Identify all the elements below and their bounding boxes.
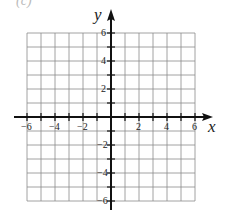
x-tick-label: −2 [77, 122, 88, 132]
x-axis-label: x [208, 118, 216, 135]
y-tick-label: 6 [101, 28, 106, 38]
y-tick-label: −6 [97, 196, 108, 206]
y-axis-label: y [94, 6, 102, 23]
coordinate-plane: (c) y x −6−4−2246642−2−4−6 [0, 0, 230, 215]
x-tick-label: −6 [21, 122, 32, 132]
x-tick-label: 2 [136, 122, 141, 132]
x-tick-label: 4 [164, 122, 169, 132]
y-tick-label: −2 [97, 140, 108, 150]
x-tick-label: 6 [192, 122, 197, 132]
y-tick-label: −4 [97, 168, 108, 178]
y-tick-label: 4 [101, 56, 106, 66]
x-tick-label: −4 [49, 122, 60, 132]
grid-plot [0, 0, 230, 215]
y-tick-label: 2 [101, 84, 106, 94]
